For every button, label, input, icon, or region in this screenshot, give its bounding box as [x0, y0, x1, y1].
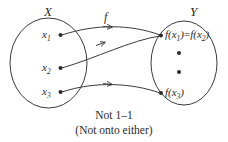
- domain-label: X: [44, 5, 52, 18]
- arrow-x2: [62, 36, 160, 68]
- fx3-base: f(x: [165, 86, 177, 98]
- dot-x3: [59, 90, 63, 94]
- codomain-element-fx1-fx2: f(x1)=f(x2): [165, 29, 209, 43]
- dot-x1: [59, 33, 63, 37]
- arrow-x1: [62, 27, 160, 35]
- unmapped-point-2: [177, 70, 181, 74]
- dot-x2: [59, 66, 63, 70]
- unmapped-point-1: [177, 51, 181, 55]
- fx2-base: f(x: [190, 28, 202, 40]
- domain-element-x3: x3: [42, 86, 51, 100]
- dot-fx3: [159, 91, 163, 95]
- function-diagram: X Y f x1 x2 x3 f(x1)=f(x2) f(x3) Not 1–1…: [0, 0, 228, 142]
- dot-fx1-fx2: [159, 34, 163, 38]
- codomain-label: Y: [190, 5, 197, 18]
- arrowhead-x2: [96, 42, 105, 45]
- fx1-base: f(x: [165, 28, 177, 40]
- arrow-x3: [62, 85, 160, 93]
- fx2-tail: ): [206, 28, 210, 40]
- function-label: f: [104, 11, 107, 23]
- caption-line-1: Not 1–1: [0, 110, 228, 122]
- x1-subscript: 1: [47, 34, 51, 43]
- x3-subscript: 3: [47, 91, 51, 100]
- caption-line-2: (Not onto either): [0, 125, 228, 137]
- codomain-element-fx3: f(x3): [165, 87, 184, 101]
- fx3-tail: ): [180, 86, 184, 98]
- domain-element-x2: x2: [42, 62, 51, 76]
- x2-subscript: 2: [47, 67, 51, 76]
- domain-element-x1: x1: [42, 29, 51, 43]
